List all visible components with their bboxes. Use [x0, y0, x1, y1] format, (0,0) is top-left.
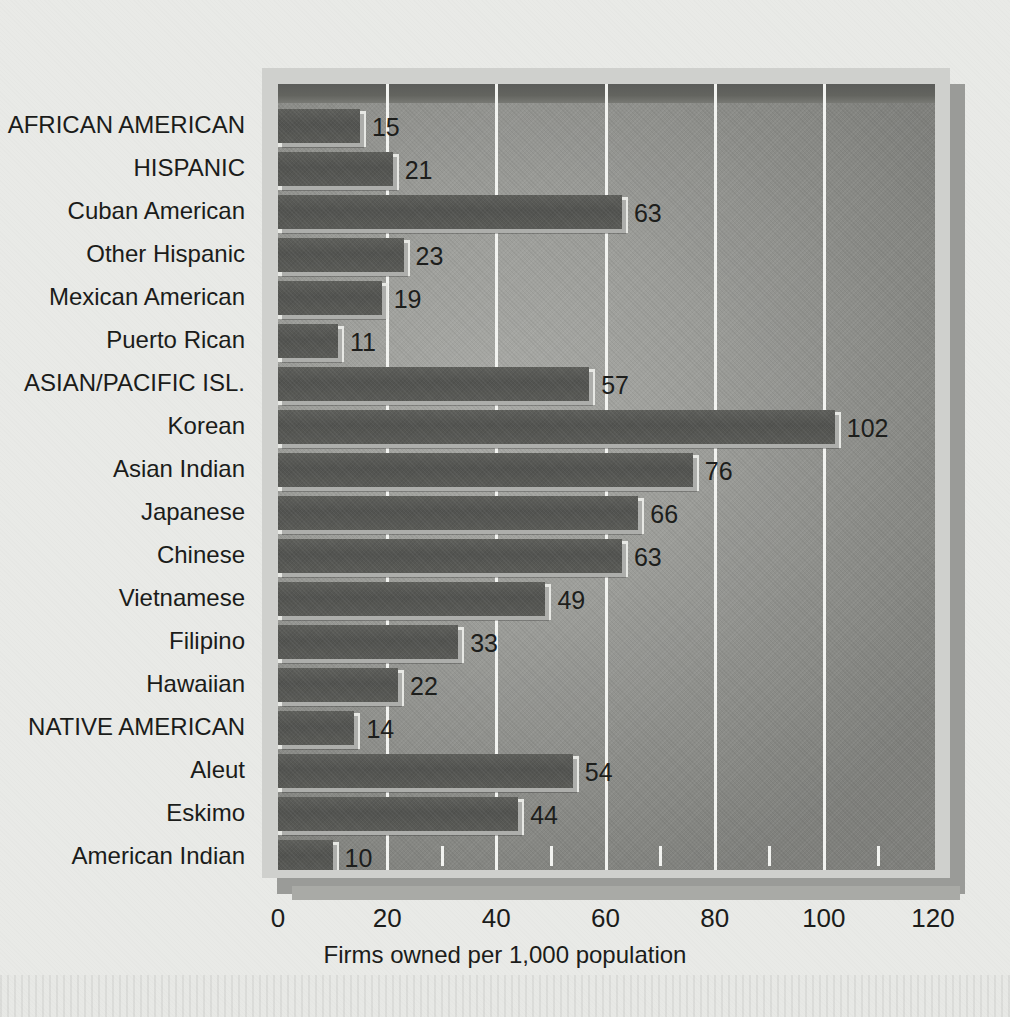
- bar[interactable]: [278, 539, 622, 573]
- category-label: Japanese: [0, 498, 245, 526]
- bar-row: 63: [278, 539, 935, 582]
- bar-value-label: 54: [585, 758, 613, 786]
- bar-texture: [278, 410, 835, 444]
- bar-texture: [278, 840, 333, 870]
- bar[interactable]: [278, 324, 338, 358]
- bar-row: 33: [278, 625, 935, 668]
- chart-page: 1521632319115710276666349332214544410 AF…: [0, 0, 1010, 1017]
- bar-row: 49: [278, 582, 935, 625]
- category-label: Eskimo: [0, 799, 245, 827]
- bar[interactable]: [278, 754, 573, 788]
- bar-texture: [278, 625, 458, 659]
- bar-value-label: 76: [705, 457, 733, 485]
- bar-value-label: 33: [470, 629, 498, 657]
- bar-row: 22: [278, 668, 935, 711]
- bar[interactable]: [278, 711, 354, 745]
- bar-value-label: 11: [350, 328, 376, 356]
- x-tick-label-0: 0: [271, 903, 285, 934]
- bar-row: 57: [278, 367, 935, 410]
- bar-texture: [278, 152, 393, 186]
- x-tick-label-80: 80: [700, 903, 729, 934]
- bar[interactable]: [278, 109, 360, 143]
- bar-texture: [278, 797, 518, 831]
- bar[interactable]: [278, 195, 622, 229]
- bar-value-label: 21: [405, 156, 433, 184]
- category-label: NATIVE AMERICAN: [0, 713, 245, 741]
- bar-row: 23: [278, 238, 935, 281]
- bar-texture: [278, 582, 545, 616]
- bar-row: 11: [278, 324, 935, 367]
- bar-texture: [278, 324, 338, 358]
- bar-texture: [278, 238, 404, 272]
- category-label: Aleut: [0, 756, 245, 784]
- bar-row: 10: [278, 840, 935, 870]
- bar-row: 63: [278, 195, 935, 238]
- bar[interactable]: [278, 152, 393, 186]
- bar[interactable]: [278, 410, 835, 444]
- bar-value-label: 14: [366, 715, 394, 743]
- bar[interactable]: [278, 582, 545, 616]
- bar-row: 76: [278, 453, 935, 496]
- bar-value-label: 44: [530, 801, 558, 829]
- bar[interactable]: [278, 625, 458, 659]
- bar[interactable]: [278, 668, 398, 702]
- x-tick-label-60: 60: [591, 903, 620, 934]
- bar[interactable]: [278, 367, 589, 401]
- x-axis-plate: [292, 886, 960, 900]
- category-label: HISPANIC: [0, 154, 245, 182]
- page-bottom-artifact: [0, 975, 1010, 1017]
- bar-texture: [278, 453, 693, 487]
- bar[interactable]: [278, 281, 382, 315]
- bar[interactable]: [278, 840, 333, 870]
- category-label: Other Hispanic: [0, 240, 245, 268]
- bar-row: 14: [278, 711, 935, 754]
- category-label: Korean: [0, 412, 245, 440]
- bar-texture: [278, 367, 589, 401]
- category-label: American Indian: [0, 842, 245, 870]
- bar-value-label: 63: [634, 543, 662, 571]
- x-tick-label-20: 20: [373, 903, 402, 934]
- bar-value-label: 23: [416, 242, 444, 270]
- bar-texture: [278, 539, 622, 573]
- bar[interactable]: [278, 797, 518, 831]
- bar[interactable]: [278, 496, 638, 530]
- bar-value-label: 66: [650, 500, 678, 528]
- plot-area: 1521632319115710276666349332214544410: [278, 84, 935, 870]
- bar-value-label: 57: [601, 371, 629, 399]
- category-label: Mexican American: [0, 283, 245, 311]
- bar-value-label: 19: [394, 285, 422, 313]
- bar-row: 15: [278, 109, 935, 152]
- bar-value-label: 22: [410, 672, 438, 700]
- bar-value-label: 49: [557, 586, 585, 614]
- bar-texture: [278, 711, 354, 745]
- category-label: Asian Indian: [0, 455, 245, 483]
- bar-row: 44: [278, 797, 935, 840]
- x-tick-label-120: 120: [911, 903, 954, 934]
- category-label: Cuban American: [0, 197, 245, 225]
- category-label: ASIAN/PACIFIC ISL.: [0, 369, 245, 397]
- bar-row: 102: [278, 410, 935, 453]
- bar-value-label: 102: [847, 414, 889, 442]
- bar-value-label: 63: [634, 199, 662, 227]
- bar[interactable]: [278, 238, 404, 272]
- bar-texture: [278, 195, 622, 229]
- bar-texture: [278, 668, 398, 702]
- x-axis-title: Firms owned per 1,000 population: [0, 941, 1010, 969]
- category-label: Vietnamese: [0, 584, 245, 612]
- bar-texture: [278, 754, 573, 788]
- bar[interactable]: [278, 453, 693, 487]
- bar-row: 21: [278, 152, 935, 195]
- bar-value-label: 15: [372, 113, 400, 141]
- category-label: AFRICAN AMERICAN: [0, 111, 245, 139]
- category-label: Hawaiian: [0, 670, 245, 698]
- bar-row: 66: [278, 496, 935, 539]
- category-label: Puerto Rican: [0, 326, 245, 354]
- bar-texture: [278, 281, 382, 315]
- category-label: Chinese: [0, 541, 245, 569]
- x-tick-label-40: 40: [482, 903, 511, 934]
- bar-texture: [278, 109, 360, 143]
- x-tick-label-100: 100: [802, 903, 845, 934]
- bar-row: 19: [278, 281, 935, 324]
- bar-value-label: 10: [345, 844, 373, 870]
- category-label: Filipino: [0, 627, 245, 655]
